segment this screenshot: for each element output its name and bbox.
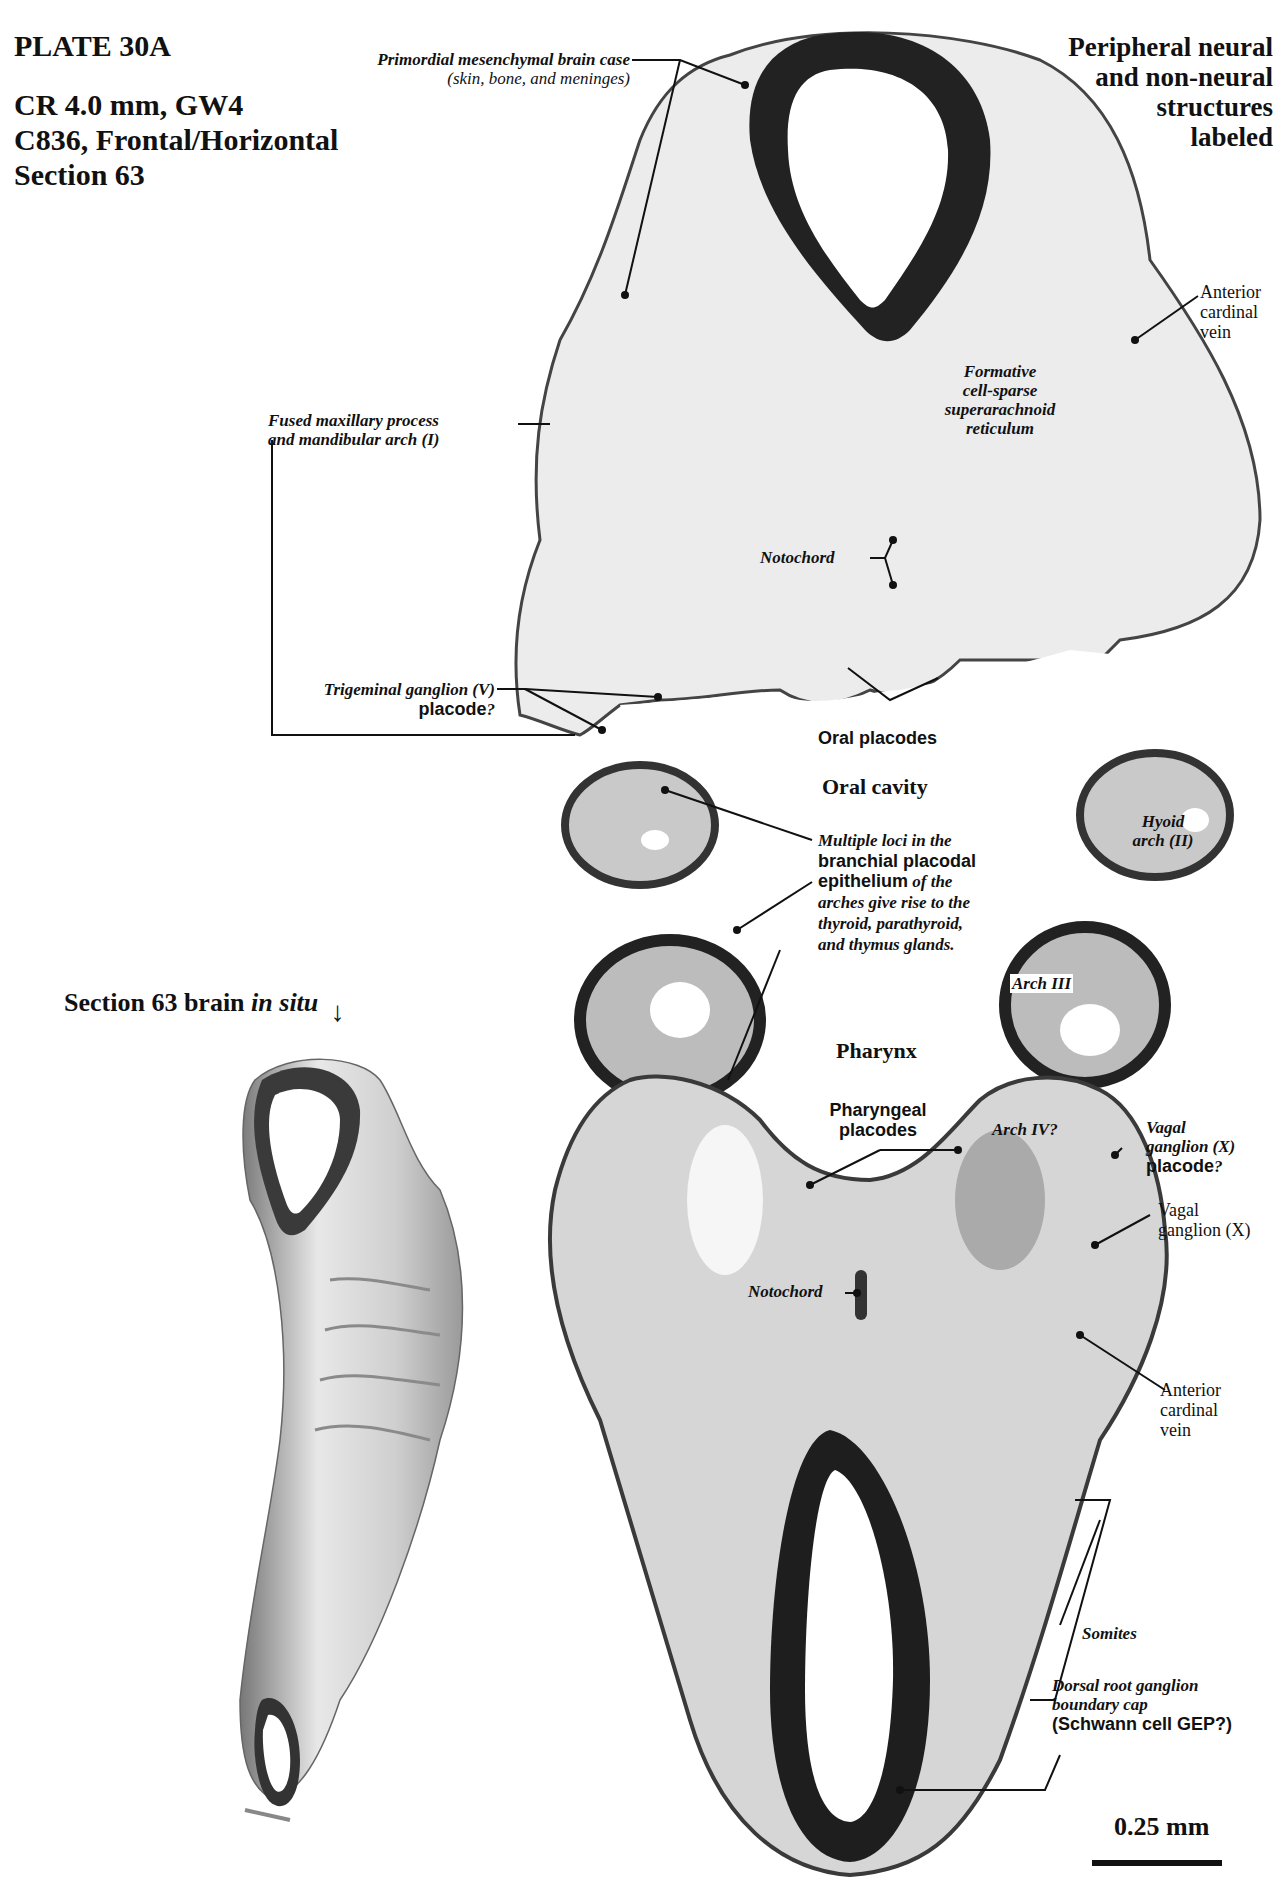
label-maxillary-mandibular-arch: Fused maxillary process and mandibular a… <box>268 411 439 449</box>
label-text: Vagal <box>1158 1200 1250 1220</box>
label-anterior-cardinal-vein-bottom: Anterior cardinal vein <box>1160 1380 1221 1440</box>
scale-bar <box>1092 1860 1222 1866</box>
heading-line: labeled <box>1068 122 1273 152</box>
label-text: epithelium <box>818 871 908 891</box>
inset-title-italic: in situ <box>251 988 318 1017</box>
label-notochord-top: Notochord <box>760 548 835 567</box>
label-arch-IV: Arch IV? <box>992 1120 1058 1139</box>
arch-II-left <box>565 765 715 885</box>
label-text: Trigeminal ganglion (V) <box>250 680 495 699</box>
label-somites: Somites <box>1082 1624 1137 1643</box>
inset-title-text: Section 63 brain <box>64 988 251 1017</box>
heading-line: and non-neural <box>1068 62 1273 92</box>
label-text: Primordial mesenchymal brain case <box>290 50 630 69</box>
inset-title: Section 63 brain in situ ↓ <box>64 988 345 1028</box>
specimen-id-plane: C836, Frontal/Horizontal <box>14 122 338 157</box>
heading-line: Peripheral neural <box>1068 32 1273 62</box>
label-text: branchial placodal <box>818 851 1018 871</box>
label-text: (skin, bone, and meninges) <box>290 69 630 88</box>
label-pharynx: Pharynx <box>836 1038 917 1064</box>
label-arch-III: Arch III <box>1010 974 1073 993</box>
label-text: Pharyngeal <box>818 1100 938 1120</box>
label-text: superarachnoid <box>885 400 1115 419</box>
label-text: placodes <box>818 1120 938 1140</box>
scale-bar-label: 0.25 mm <box>1114 1812 1209 1842</box>
label-text: Formative <box>885 362 1115 381</box>
label-text: cardinal <box>1200 302 1261 322</box>
label-hyoid-arch: Hyoid arch (II) <box>1118 812 1208 850</box>
label-superarachnoid-reticulum: Formative cell-sparse superarachnoid ret… <box>885 362 1115 438</box>
label-text: thyroid, parathyroid, <box>818 913 1018 934</box>
inset-brain-3d <box>240 1059 463 1820</box>
heading-line: structures <box>1068 92 1273 122</box>
label-text: Anterior <box>1200 282 1261 302</box>
label-oral-placodes: Oral placodes <box>818 728 937 748</box>
label-text: boundary cap <box>1052 1695 1232 1714</box>
label-text: Dorsal root ganglion <box>1052 1676 1232 1695</box>
label-text: arches give rise to the <box>818 892 1018 913</box>
label-text: Fused maxillary process <box>268 411 439 430</box>
plate-subject-heading: Peripheral neural and non-neural structu… <box>1068 32 1273 152</box>
label-text: ganglion (X) <box>1146 1137 1235 1156</box>
label-text: placode <box>418 699 486 719</box>
label-text: vein <box>1160 1420 1221 1440</box>
label-branchial-placodal-epithelium: Multiple loci in the branchial placodal … <box>818 830 1018 955</box>
label-text: placode <box>1146 1156 1214 1176</box>
label-oral-cavity: Oral cavity <box>822 774 928 800</box>
label-text: Hyoid <box>1118 812 1208 831</box>
label-dorsal-root-ganglion-cap: Dorsal root ganglion boundary cap (Schwa… <box>1052 1676 1232 1734</box>
histology-section-drawing <box>0 0 1287 1882</box>
label-text: cell-sparse <box>885 381 1115 400</box>
specimen-size: CR 4.0 mm, GW4 <box>14 87 338 122</box>
label-text: Vagal <box>1146 1118 1235 1137</box>
label-text: and mandibular arch (I) <box>268 430 439 449</box>
label-brain-case: Primordial mesenchymal brain case (skin,… <box>290 50 630 88</box>
label-text: cardinal <box>1160 1400 1221 1420</box>
label-text: ganglion (X) <box>1158 1220 1250 1240</box>
label-text: and thymus glands. <box>818 934 1018 955</box>
label-pharyngeal-placodes: Pharyngeal placodes <box>818 1100 938 1140</box>
label-anterior-cardinal-vein-top: Anterior cardinal vein <box>1200 282 1261 342</box>
label-text: reticulum <box>885 419 1115 438</box>
label-notochord-bottom: Notochord <box>748 1282 823 1301</box>
label-text: ? <box>1214 1157 1223 1176</box>
label-text: vein <box>1200 322 1261 342</box>
label-vagal-ganglion-placode: Vagal ganglion (X) placode? <box>1146 1118 1235 1176</box>
label-text: Anterior <box>1160 1380 1221 1400</box>
section-number: Section 63 <box>14 157 338 192</box>
label-vagal-ganglion: Vagal ganglion (X) <box>1158 1200 1250 1240</box>
label-text: of the <box>908 872 952 891</box>
label-text: (Schwann cell GEP?) <box>1052 1714 1232 1734</box>
label-trigeminal-placode: Trigeminal ganglion (V) placode? <box>250 680 495 719</box>
down-arrow-icon: ↓ <box>331 996 345 1028</box>
label-text: ? <box>487 700 496 719</box>
label-text: arch (II) <box>1118 831 1208 850</box>
label-text: Multiple loci in the <box>818 830 1018 851</box>
